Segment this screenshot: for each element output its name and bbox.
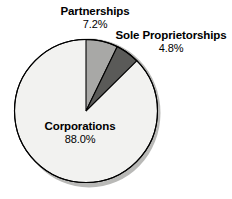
pie-chart-figure: Partnerships 7.2% Sole Proprietorships 4…	[0, 0, 232, 199]
slice-label-sole-proprietorships: Sole Proprietorships 4.8%	[110, 29, 232, 54]
slice-label-partnerships-name: Partnerships	[42, 5, 148, 18]
slice-label-sole-proprietorships-value: 4.8%	[110, 42, 232, 54]
slice-label-corporations: Corporations 88.0%	[22, 120, 138, 145]
slice-label-corporations-value: 88.0%	[22, 133, 138, 145]
slice-label-partnerships: Partnerships 7.2%	[42, 5, 148, 30]
slice-label-corporations-name: Corporations	[22, 120, 138, 133]
slice-label-sole-proprietorships-name: Sole Proprietorships	[110, 29, 232, 42]
